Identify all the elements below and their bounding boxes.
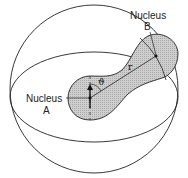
- distance-label-r: r: [128, 62, 133, 72]
- nucleus-b-label-2: B: [144, 21, 151, 32]
- nucleus-a-label-2: A: [43, 105, 50, 116]
- angle-label-theta: ϑ: [98, 77, 105, 87]
- nucleus-a-label-1: Nucleus: [26, 93, 62, 104]
- sphere-dumbbell-diagram: Nucleus A Nucleus B r ϑ: [0, 0, 188, 178]
- nucleus-b-label-1: Nucleus: [130, 10, 166, 21]
